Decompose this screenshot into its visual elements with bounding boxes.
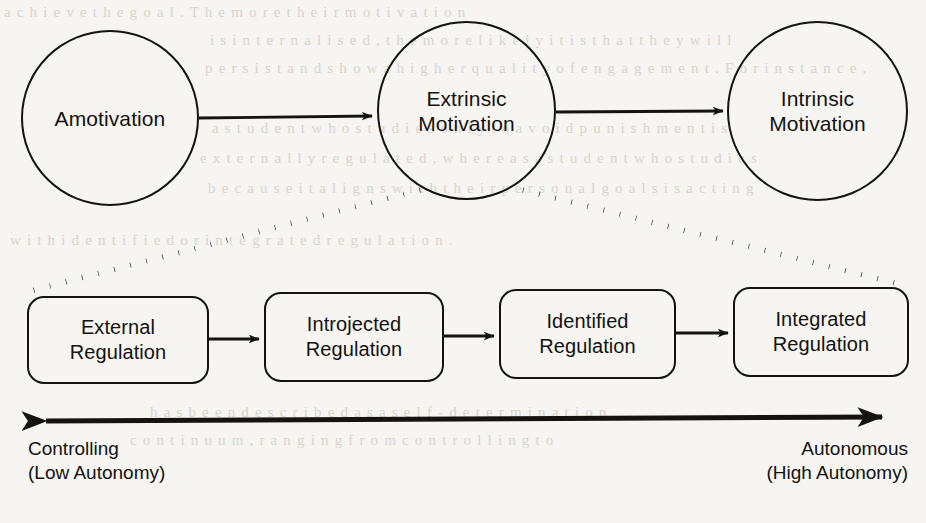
node-extrinsic-motivation-label: Extrinsic Motivation: [418, 86, 515, 136]
node-amotivation[interactable]: Amotivation: [21, 30, 199, 206]
box-integrated-regulation-label: Integrated Regulation: [773, 307, 870, 357]
node-intrinsic-motivation-label: Intrinsic Motivation: [769, 86, 866, 136]
arrow-extrinsic-to-intrinsic: [556, 111, 723, 112]
box-introjected-regulation[interactable]: Introjected Regulation: [264, 292, 444, 382]
diagram-page: a c h i e v e t h e g o a l . T h e m o …: [0, 0, 926, 523]
box-identified-regulation[interactable]: Identified Regulation: [499, 289, 676, 379]
dotted-guide-right: [523, 190, 907, 286]
continuum-axis-arrow: [46, 417, 882, 421]
box-identified-regulation-label: Identified Regulation: [539, 309, 636, 359]
continuum-right-label: Autonomous (High Autonomy): [766, 437, 908, 485]
arrow-amotivation-to-extrinsic: [199, 116, 372, 118]
self-determination-continuum-figure: Amotivation Extrinsic Motivation Intrins…: [0, 0, 926, 523]
box-external-regulation-label: External Regulation: [70, 315, 167, 365]
box-introjected-regulation-label: Introjected Regulation: [306, 312, 403, 362]
node-amotivation-label: Amotivation: [55, 106, 166, 131]
box-external-regulation[interactable]: External Regulation: [27, 296, 209, 384]
box-integrated-regulation[interactable]: Integrated Regulation: [733, 287, 909, 377]
node-extrinsic-motivation[interactable]: Extrinsic Motivation: [377, 21, 556, 200]
node-intrinsic-motivation[interactable]: Intrinsic Motivation: [727, 21, 908, 201]
dotted-guide-left: [31, 190, 420, 291]
continuum-left-label: Controlling (Low Autonomy): [28, 437, 165, 485]
